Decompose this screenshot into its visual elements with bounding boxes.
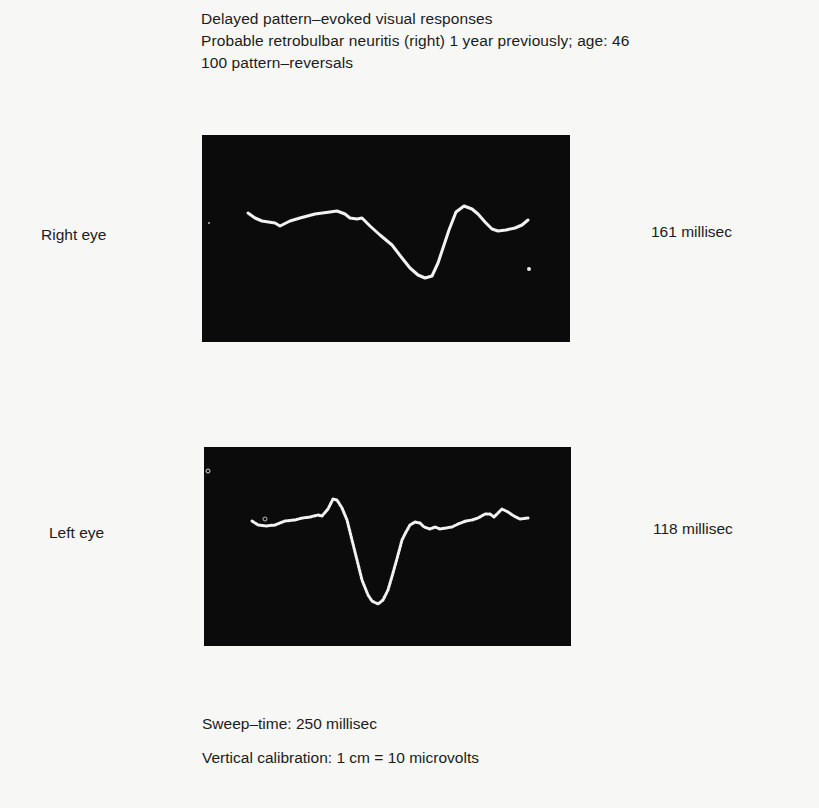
left-eye-oscilloscope <box>204 447 571 646</box>
right-eye-trace <box>248 206 528 278</box>
vertical-calibration-note: Vertical calibration: 1 cm = 10 microvol… <box>202 749 479 767</box>
caption-title: Delayed pattern–evoked visual responses <box>201 8 630 30</box>
right-eye-latency: 161 millisec <box>651 223 732 241</box>
sweep-time-note: Sweep–time: 250 millisec <box>202 715 377 733</box>
figure-caption: Delayed pattern–evoked visual responses … <box>201 8 630 74</box>
right-eye-oscilloscope <box>202 135 570 342</box>
caption-subtitle: Probable retrobulbar neuritis (right) 1 … <box>201 30 630 52</box>
left-eye-trace <box>252 499 528 604</box>
left-eye-latency: 118 millisec <box>653 520 733 538</box>
left-eye-trace-plot <box>204 447 571 646</box>
caption-trials: 100 pattern–reversals <box>201 52 630 74</box>
right-eye-label: Right eye <box>41 226 106 244</box>
right-eye-trace-plot <box>202 135 570 342</box>
left-eye-label: Left eye <box>49 524 104 542</box>
